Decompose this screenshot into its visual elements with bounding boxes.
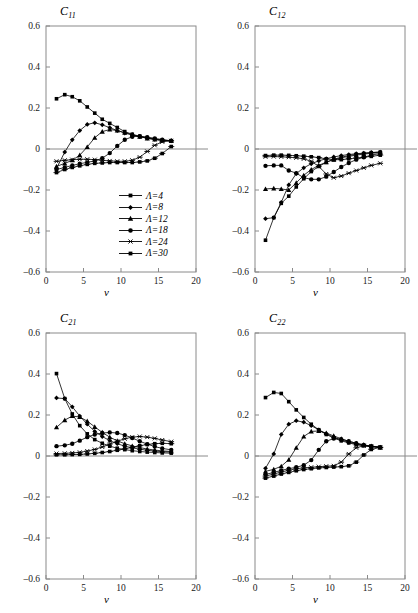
legend-marker-cross-square-icon — [118, 248, 144, 259]
svg-text:–0.2: –0.2 — [231, 185, 249, 195]
svg-text:10: 10 — [116, 583, 126, 593]
svg-text:–0.6: –0.6 — [22, 267, 40, 277]
svg-text:0.6: 0.6 — [28, 21, 40, 31]
legend-label: Λ=24 — [144, 237, 168, 247]
svg-text:0.6: 0.6 — [237, 21, 249, 31]
panel-c21: C21 –0.6–0.4–0.200.20.40.605101520 v — [0, 307, 209, 613]
svg-text:–0.2: –0.2 — [231, 492, 249, 502]
legend-label: Λ=8 — [144, 202, 163, 212]
plot-c21: –0.6–0.4–0.200.20.40.605101520 — [0, 307, 209, 613]
svg-text:–0.4: –0.4 — [22, 226, 40, 236]
svg-text:0.4: 0.4 — [28, 369, 40, 379]
svg-text:0.2: 0.2 — [237, 410, 249, 420]
svg-text:0: 0 — [253, 276, 258, 286]
legend-item-5: Λ=24 — [118, 236, 168, 248]
plot-c11: –0.6–0.4–0.200.20.40.605101520 — [0, 0, 209, 306]
panel-c11: C11 –0.6–0.4–0.200.20.40.605101520 v Λ=4… — [0, 0, 209, 306]
svg-text:0.4: 0.4 — [237, 369, 249, 379]
svg-text:–0.2: –0.2 — [22, 185, 40, 195]
svg-text:0: 0 — [35, 144, 40, 154]
legend-label: Λ=12 — [144, 214, 168, 224]
xlabel-c12: v — [313, 286, 318, 298]
legend-marker-star-icon — [118, 236, 144, 247]
panel-c12: C12 –0.6–0.4–0.200.20.40.605101520 v — [209, 0, 418, 306]
legend-marker-triangle-icon — [118, 213, 144, 224]
svg-text:15: 15 — [154, 583, 164, 593]
legend-marker-square-icon — [118, 190, 144, 201]
svg-text:15: 15 — [154, 276, 164, 286]
xlabel-c11: v — [104, 286, 109, 298]
svg-text:0: 0 — [244, 144, 249, 154]
svg-text:0: 0 — [44, 276, 49, 286]
svg-text:–0.4: –0.4 — [22, 533, 40, 543]
legend-item-6: Λ=30 — [118, 248, 168, 260]
svg-text:–0.6: –0.6 — [231, 267, 249, 277]
svg-text:5: 5 — [81, 583, 86, 593]
svg-text:20: 20 — [191, 583, 201, 593]
svg-text:0.2: 0.2 — [28, 410, 40, 420]
svg-text:0.6: 0.6 — [237, 328, 249, 338]
legend-marker-circle-icon — [118, 225, 144, 236]
svg-text:20: 20 — [400, 583, 410, 593]
svg-text:0.2: 0.2 — [237, 103, 249, 113]
svg-text:20: 20 — [191, 276, 201, 286]
svg-text:–0.4: –0.4 — [231, 533, 249, 543]
svg-text:5: 5 — [81, 276, 86, 286]
legend-label: Λ=18 — [144, 225, 168, 235]
svg-text:–0.6: –0.6 — [22, 574, 40, 584]
xlabel-c21: v — [104, 593, 109, 605]
svg-text:15: 15 — [363, 276, 373, 286]
legend-marker-diamond-icon — [118, 202, 144, 213]
legend-label: Λ=30 — [144, 248, 168, 258]
svg-text:0: 0 — [244, 451, 249, 461]
svg-text:0.6: 0.6 — [28, 328, 40, 338]
svg-text:0.2: 0.2 — [28, 103, 40, 113]
svg-text:10: 10 — [325, 583, 335, 593]
svg-text:0.4: 0.4 — [237, 62, 249, 72]
legend-item-4: Λ=18 — [118, 225, 168, 237]
panel-c22: C22 –0.6–0.4–0.200.20.40.605101520 v — [209, 307, 418, 613]
svg-text:5: 5 — [290, 276, 295, 286]
plot-c12: –0.6–0.4–0.200.20.40.605101520 — [209, 0, 418, 306]
svg-text:10: 10 — [325, 276, 335, 286]
legend-item-2: Λ=8 — [118, 202, 168, 214]
svg-text:–0.6: –0.6 — [231, 574, 249, 584]
svg-text:0: 0 — [44, 583, 49, 593]
legend-item-3: Λ=12 — [118, 213, 168, 225]
figure-correlation-panels: C11 –0.6–0.4–0.200.20.40.605101520 v Λ=4… — [0, 0, 418, 613]
svg-text:10: 10 — [116, 276, 126, 286]
svg-text:0: 0 — [35, 451, 40, 461]
svg-text:0.4: 0.4 — [28, 62, 40, 72]
svg-text:0: 0 — [253, 583, 258, 593]
plot-c22: –0.6–0.4–0.200.20.40.605101520 — [209, 307, 418, 613]
svg-text:5: 5 — [290, 583, 295, 593]
svg-text:20: 20 — [400, 276, 410, 286]
legend-label: Λ=4 — [144, 191, 163, 201]
svg-text:–0.4: –0.4 — [231, 226, 249, 236]
svg-text:–0.2: –0.2 — [22, 492, 40, 502]
legend: Λ=4Λ=8Λ=12Λ=18Λ=24Λ=30 — [118, 190, 168, 259]
legend-item-1: Λ=4 — [118, 190, 168, 202]
xlabel-c22: v — [313, 593, 318, 605]
svg-text:15: 15 — [363, 583, 373, 593]
